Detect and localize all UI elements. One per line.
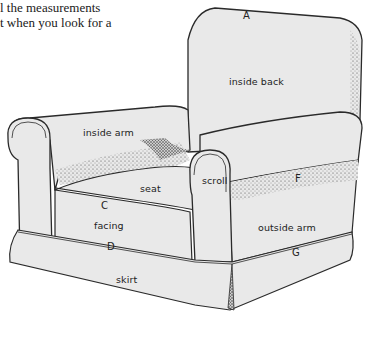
label-f: F (295, 173, 301, 184)
label-g: G (292, 247, 300, 258)
label-c: C (101, 200, 108, 211)
label-outside-arm: outside arm (258, 222, 316, 233)
armchair-illustration (0, 0, 369, 341)
label-facing: facing (94, 220, 124, 231)
label-d: D (107, 241, 115, 252)
label-scroll: scroll (202, 175, 228, 186)
label-a: A (243, 10, 250, 21)
label-seat: seat (140, 183, 161, 194)
label-inside-back: inside back (229, 76, 284, 87)
label-inside-arm: inside arm (83, 127, 134, 138)
label-skirt: skirt (116, 274, 137, 285)
